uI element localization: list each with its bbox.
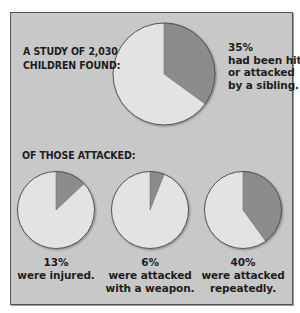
main-pie-label: 35% had been hit or attacked by a siblin… bbox=[228, 41, 300, 91]
study-heading: A STUDY OF 2,030 CHILDREN FOUND: bbox=[23, 44, 120, 72]
sub-pie-injured bbox=[18, 172, 95, 249]
sub-pie-label-injured: 13% were injured. bbox=[6, 256, 106, 282]
sub-pie-label-weapon: 6% were attacked with a weapon. bbox=[100, 256, 200, 295]
sub-pie-line-2: with a weapon. bbox=[100, 282, 200, 295]
sub-pie-percent: 40% bbox=[193, 256, 293, 269]
main-pie-percent: 35% bbox=[228, 41, 300, 54]
sub-pie-weapon bbox=[112, 172, 189, 249]
sub-pie-repeatedly bbox=[205, 172, 282, 249]
sub-pie-line-1: were attacked bbox=[193, 269, 293, 282]
main-pie bbox=[113, 23, 215, 125]
sub-pie-line-1: were injured. bbox=[6, 269, 106, 282]
sub-pie-percent: 6% bbox=[100, 256, 200, 269]
heading-line-1: A STUDY OF 2,030 bbox=[23, 44, 120, 58]
sub-pie-line-2: repeatedly. bbox=[193, 282, 293, 295]
sub-pie-line-1: were attacked bbox=[100, 269, 200, 282]
main-pie-line-3: by a sibling. bbox=[228, 79, 300, 92]
main-pie-line-1: had been hit bbox=[228, 54, 300, 67]
attacked-subheading: OF THOSE ATTACKED: bbox=[22, 149, 135, 162]
heading-line-2: CHILDREN FOUND: bbox=[23, 58, 120, 72]
sub-pie-label-repeatedly: 40% were attacked repeatedly. bbox=[193, 256, 293, 295]
main-pie-line-2: or attacked bbox=[228, 66, 300, 79]
sub-pie-percent: 13% bbox=[6, 256, 106, 269]
